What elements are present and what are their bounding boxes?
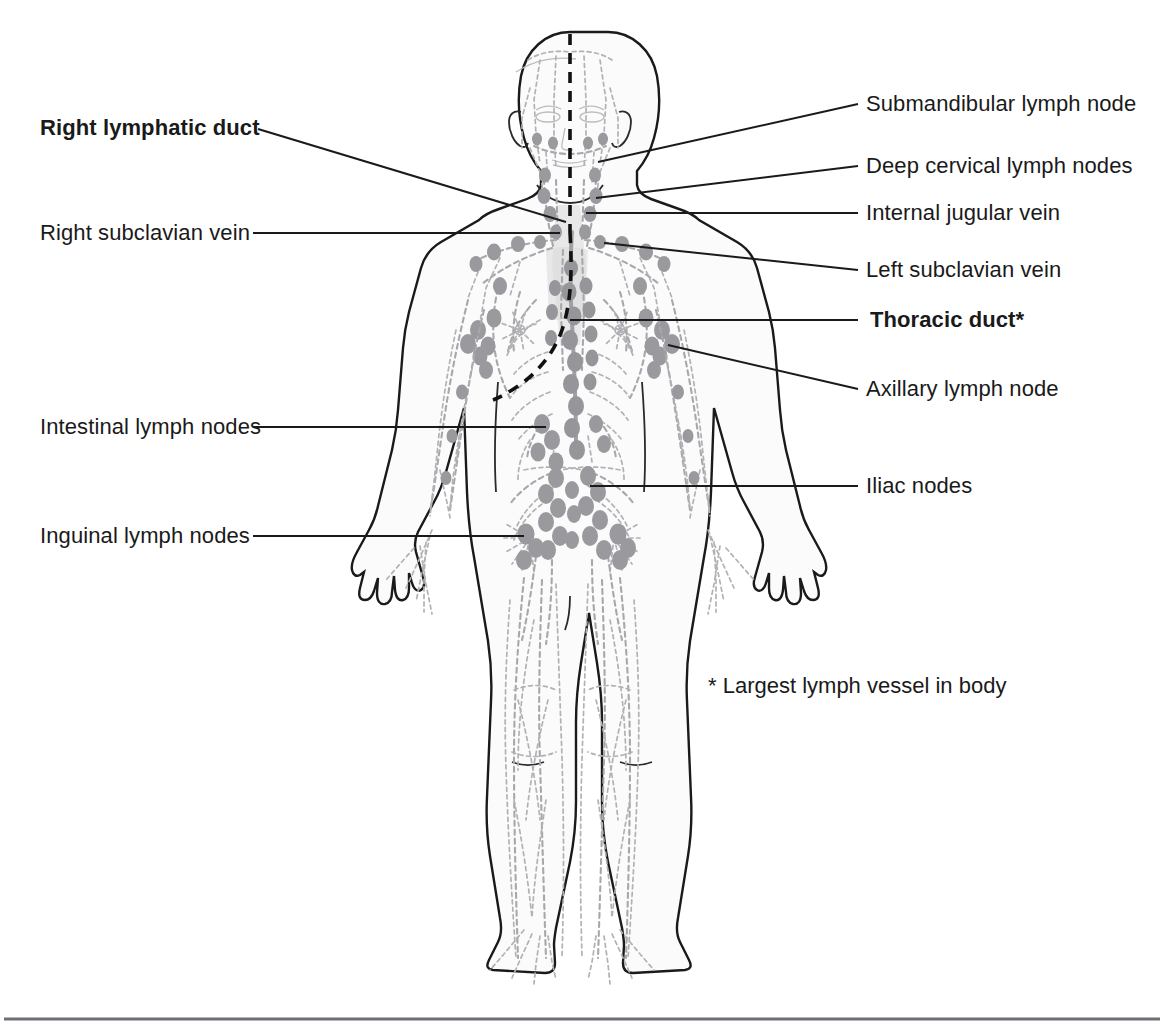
label-axillary-lymph-node: Axillary lymph node (866, 376, 1059, 402)
label-left-subclavian-vein: Left subclavian vein (866, 257, 1061, 283)
label-thoracic-duct: Thoracic duct* (870, 307, 1024, 333)
label-iliac-nodes: Iliac nodes (866, 473, 972, 499)
label-intestinal-lymph-nodes: Intestinal lymph nodes (40, 414, 248, 440)
label-deep-cervical-lymph-nodes: Deep cervical lymph nodes (866, 153, 1133, 179)
label-submandibular-lymph-node: Submandibular lymph node (866, 91, 1136, 117)
footnote-largest-lymph-vessel: * Largest lymph vessel in body (708, 673, 1006, 699)
label-internal-jugular-vein: Internal jugular vein (866, 200, 1060, 226)
label-right-lymphatic-duct: Right lymphatic duct (40, 115, 258, 141)
leader-right-lymphatic-duct (258, 129, 566, 222)
label-inguinal-lymph-nodes: Inguinal lymph nodes (40, 523, 248, 549)
label-right-subclavian-vein: Right subclavian vein (40, 220, 248, 246)
